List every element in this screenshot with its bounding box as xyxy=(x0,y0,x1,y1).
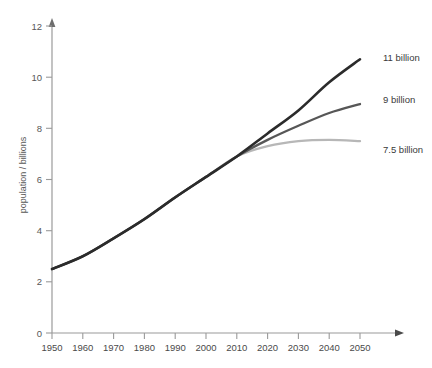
x-axis-arrow-icon xyxy=(395,330,404,337)
y-tick-group: 0 2 4 6 8 10 12 xyxy=(31,21,52,339)
series-line-high-variant xyxy=(52,59,360,269)
series-endpoint-labels: 11 billion 9 billion 7.5 billion xyxy=(383,52,423,155)
x-tick-label-1960: 1960 xyxy=(72,342,93,353)
y-tick-label-6: 6 xyxy=(37,174,42,185)
x-tick-label-1980: 1980 xyxy=(134,342,155,353)
x-tick-label-2020: 2020 xyxy=(257,342,278,353)
y-tick-label-4: 4 xyxy=(37,225,42,236)
series-label-low: 7.5 billion xyxy=(383,144,423,155)
series-label-high: 11 billion xyxy=(383,52,420,63)
y-tick-label-2: 2 xyxy=(37,276,42,287)
x-tick-label-2000: 2000 xyxy=(195,342,216,353)
series-label-medium: 9 billion xyxy=(383,94,415,105)
chart-canvas: 0 2 4 6 8 10 12 1950 1960 1970 1980 xyxy=(0,0,432,368)
population-projection-chart: 0 2 4 6 8 10 12 1950 1960 1970 1980 xyxy=(0,0,432,368)
y-tick-label-8: 8 xyxy=(37,123,42,134)
y-axis-title: population / billions xyxy=(18,136,28,213)
series-group xyxy=(52,59,360,269)
x-tick-label-2010: 2010 xyxy=(226,342,247,353)
y-tick-label-0: 0 xyxy=(37,328,42,339)
x-tick-label-2030: 2030 xyxy=(288,342,309,353)
x-tick-label-1970: 1970 xyxy=(103,342,124,353)
x-tick-label-1990: 1990 xyxy=(165,342,186,353)
y-tick-label-12: 12 xyxy=(31,21,42,32)
series-line-low-variant xyxy=(52,140,360,269)
series-line-medium-variant xyxy=(52,104,360,269)
x-tick-label-2040: 2040 xyxy=(319,342,340,353)
x-tick-label-1950: 1950 xyxy=(41,342,62,353)
x-tick-label-2050: 2050 xyxy=(349,342,370,353)
y-tick-label-10: 10 xyxy=(31,72,42,83)
x-tick-group: 1950 1960 1970 1980 1990 2000 2010 2020 … xyxy=(41,333,370,353)
